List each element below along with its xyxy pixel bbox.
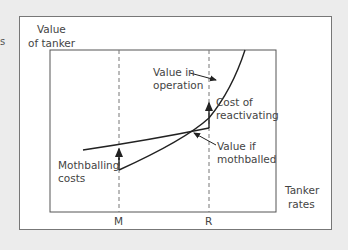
label-value-mothballed-2: mothballed [217, 153, 276, 166]
label-value-operation-1: Value in [153, 66, 195, 79]
value-mothballed-curve [83, 128, 209, 150]
x-axis-label-1: Tanker [285, 184, 319, 197]
label-cost-reactivating-1: Cost of [216, 96, 253, 109]
x-axis-label-2: rates [288, 198, 315, 211]
y-axis-label-1: Value [37, 23, 66, 36]
label-mothballing-costs-1: Mothballing [58, 159, 119, 172]
x-tick-r: R [205, 215, 212, 228]
label-value-mothballed-1: Value if [217, 140, 256, 153]
y-axis-label-2: of tanker [28, 37, 75, 50]
x-tick-m: M [114, 215, 123, 228]
label-cost-reactivating-2: reactivating [216, 109, 279, 122]
mothballed-leader-arrow [194, 133, 216, 145]
label-value-operation-2: operation [153, 79, 203, 92]
label-mothballing-costs-2: costs [58, 172, 85, 185]
